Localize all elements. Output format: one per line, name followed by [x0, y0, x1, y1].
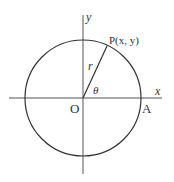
diagram-canvas [0, 0, 174, 182]
radius-label: r [88, 60, 93, 72]
origin-label: O [70, 102, 79, 115]
y-axis-label: y [86, 11, 91, 23]
x-axis-label: x [155, 85, 160, 97]
point-p-label: P(x, y) [109, 35, 139, 46]
point-a-label: A [142, 102, 151, 115]
polar-coordinate-diagram: y P(x, y) r θ x O A [0, 0, 174, 182]
angle-theta-label: θ [93, 85, 98, 96]
